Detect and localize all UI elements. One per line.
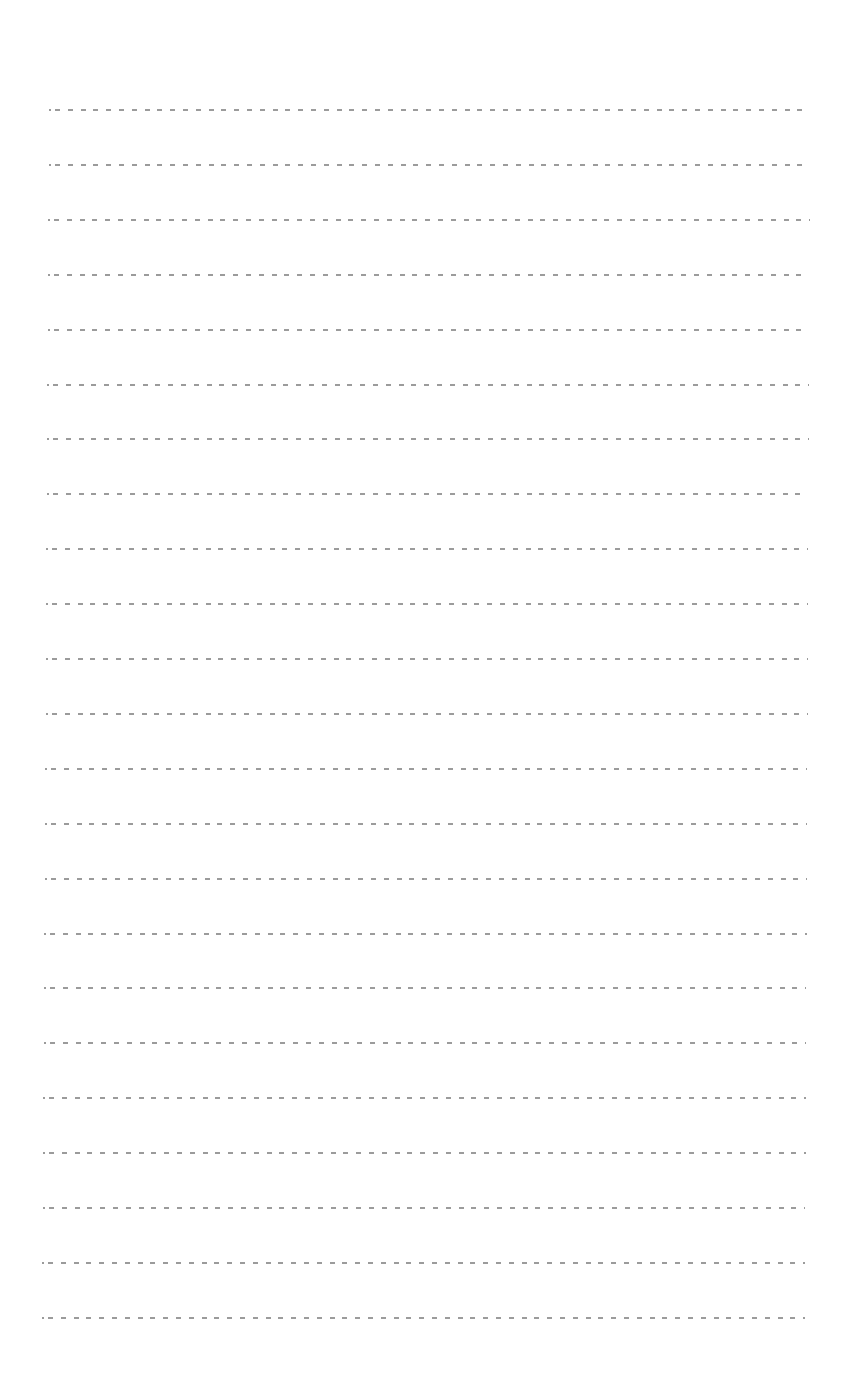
ruled-line — [51, 768, 807, 770]
ruled-line — [50, 987, 806, 989]
ruled-line — [51, 878, 807, 880]
ruled-line — [55, 109, 810, 111]
ruled-line — [52, 658, 808, 660]
ruled-line — [49, 1207, 806, 1209]
ruled-line — [53, 493, 809, 495]
ruled-line — [48, 1317, 805, 1319]
ruled-line — [52, 603, 808, 605]
ruled-page — [0, 0, 856, 1375]
ruled-line — [53, 438, 809, 440]
ruled-line — [48, 1262, 805, 1264]
ruled-line — [55, 164, 810, 166]
ruled-line — [53, 384, 808, 386]
ruled-line — [54, 274, 809, 276]
ruled-line — [49, 1097, 806, 1099]
ruled-line — [54, 219, 809, 221]
ruled-line — [51, 823, 807, 825]
ruled-line — [50, 1042, 807, 1044]
ruled-line — [54, 329, 809, 331]
ruled-line — [52, 548, 808, 550]
ruled-line — [49, 1152, 806, 1154]
ruled-line — [50, 933, 806, 935]
ruled-line — [52, 713, 808, 715]
